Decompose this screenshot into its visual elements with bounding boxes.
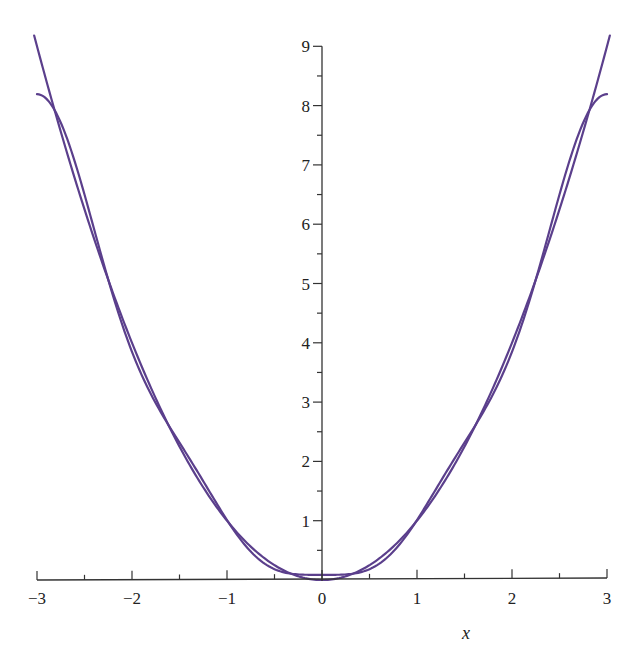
x-axis-label: x xyxy=(461,623,470,643)
x-tick-label: −3 xyxy=(28,589,46,608)
y-tick-label: 1 xyxy=(302,512,311,531)
x-tick-label: 1 xyxy=(413,589,422,608)
x-tick-label: 0 xyxy=(318,589,327,608)
y-tick-label: 6 xyxy=(302,215,311,234)
y-tick-label: 9 xyxy=(302,37,311,56)
y-ticks: 123456789 xyxy=(302,37,323,550)
y-tick-label: 7 xyxy=(302,156,311,175)
x-tick-label: −1 xyxy=(218,589,236,608)
x-tick-label: 3 xyxy=(603,589,612,608)
y-tick-label: 3 xyxy=(302,393,311,412)
y-tick-label: 2 xyxy=(302,452,311,471)
y-tick-label: 8 xyxy=(302,97,311,116)
x-tick-label: −2 xyxy=(123,589,141,608)
y-tick-label: 5 xyxy=(302,275,311,294)
x-tick-label: 2 xyxy=(508,589,517,608)
y-tick-label: 4 xyxy=(302,334,311,353)
plot-area: −3−2−10123 123456789 x xyxy=(0,0,632,656)
axes: −3−2−10123 123456789 xyxy=(28,37,611,608)
